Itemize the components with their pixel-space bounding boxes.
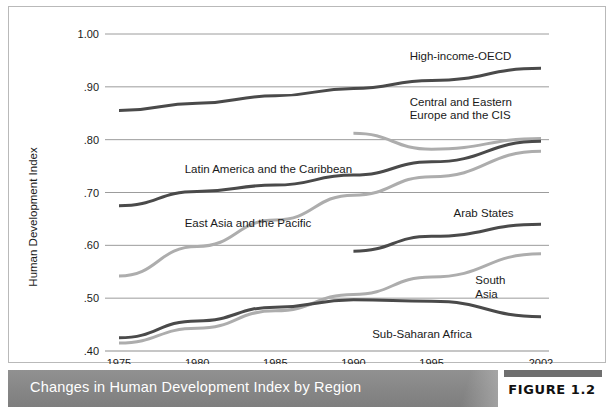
figure-container: 1.00.90.80.70.60.50.40 19751980198519901…	[0, 0, 616, 415]
y-axis-tick-labels: 1.00.90.80.70.60.50.40	[78, 28, 99, 357]
series-label: Latin America and the Caribbean	[185, 163, 353, 175]
x-axis-tick-labels: 197519801985199019952002	[107, 357, 553, 364]
y-tick-label: .80	[84, 134, 99, 146]
series-label: High-income-OECD	[410, 50, 512, 62]
y-tick-label: .70	[84, 187, 99, 199]
series-label: East Asia and the Pacific	[185, 217, 312, 229]
series-label: Europe and the CIS	[410, 109, 511, 121]
x-tick-label: 1975	[107, 357, 131, 364]
figure-number-label: FIGURE 1.2	[498, 382, 606, 397]
series-line	[353, 133, 541, 149]
x-tick-label: 1980	[185, 357, 209, 364]
x-tick-label: 2002	[529, 357, 553, 364]
y-tick-label: .50	[84, 292, 99, 304]
gridlines	[105, 34, 549, 351]
y-tick-label: .40	[84, 345, 99, 357]
figure-tab-accent	[504, 370, 602, 377]
y-axis-title: Human Development Index	[27, 147, 39, 287]
x-tick-label: 1990	[341, 357, 365, 364]
series-line	[119, 300, 541, 338]
figure-caption-bar: Changes in Human Development Index by Re…	[8, 370, 606, 407]
series-label: South	[475, 274, 505, 286]
x-tick-label: 1995	[419, 357, 443, 364]
series-label: Arab States	[453, 207, 513, 219]
x-tick-label: 1985	[263, 357, 287, 364]
series-label: Asia	[475, 288, 498, 300]
chart-panel: 1.00.90.80.70.60.50.40 19751980198519901…	[8, 6, 606, 363]
series-line	[353, 224, 541, 251]
y-tick-label: .60	[84, 239, 99, 251]
series-label: Central and Eastern	[410, 96, 512, 108]
line-chart: 1.00.90.80.70.60.50.40 19751980198519901…	[9, 7, 607, 364]
figure-number-tab: FIGURE 1.2	[498, 370, 606, 407]
y-tick-label: 1.00	[78, 28, 99, 40]
series-label: Sub-Saharan Africa	[372, 328, 472, 340]
figure-caption-text: Changes in Human Development Index by Re…	[30, 379, 361, 395]
y-tick-label: .90	[84, 81, 99, 93]
